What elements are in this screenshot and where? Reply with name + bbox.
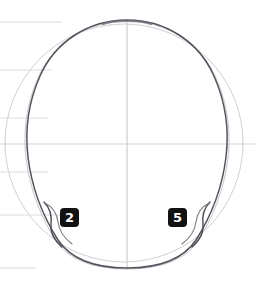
skull-drawing-canvas [0,0,255,284]
callout-badge-2[interactable]: 2 [60,208,79,227]
construction-circle [5,24,243,262]
callout-badge-5[interactable]: 5 [168,208,187,227]
skull-construction-figure: 2 5 [0,0,255,284]
